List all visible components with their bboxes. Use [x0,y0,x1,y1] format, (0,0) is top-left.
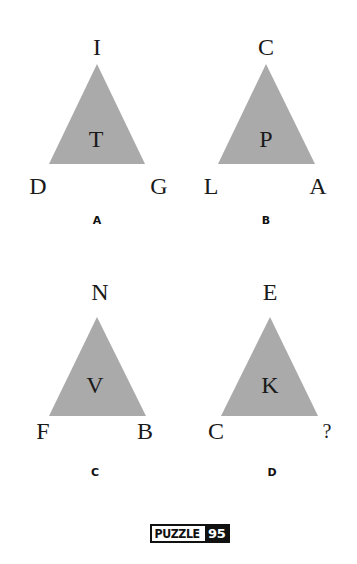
triangle-d-right-unknown: ? [323,421,332,441]
triangle-b-center-letter: P [259,127,272,151]
triangles-figure [0,0,357,564]
triangle-a-top-letter: I [93,35,101,59]
triangle-b-left-letter: L [204,174,219,198]
triangle-c-caption: C [91,466,99,479]
triangle-d-caption: D [267,466,276,479]
logo-number: 95 [205,526,228,541]
triangle-b-top-letter: C [258,35,274,59]
triangle-b-right-letter: A [309,174,326,198]
triangle-a-center-letter: T [89,127,104,151]
triangle-d [221,317,318,416]
triangle-a-left-letter: D [29,174,46,198]
triangle-d-top-letter: E [263,280,278,304]
triangle-a-caption: A [93,214,102,227]
triangle-c-right-letter: B [137,419,153,443]
logo-word: PUZZLE [152,526,202,541]
puzzle-number-logo: PUZZLE 95 [150,524,230,543]
triangle-d-left-letter: C [208,419,224,443]
triangle-c-left-letter: F [36,419,49,443]
triangle-a-right-letter: G [150,174,167,198]
triangle-d-center-letter: K [261,373,278,397]
triangle-c [49,317,146,416]
triangle-c-center-letter: V [86,373,103,397]
triangle-c-top-letter: N [91,280,108,304]
triangle-b-caption: B [262,214,270,227]
